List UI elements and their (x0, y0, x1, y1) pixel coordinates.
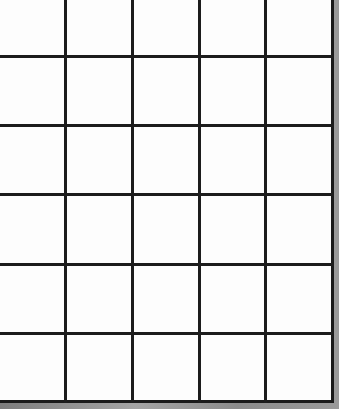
grid-vertical-line (131, 0, 134, 403)
grid-vertical-line (264, 0, 267, 403)
grid-sheet (0, 0, 334, 403)
grid-horizontal-line (0, 332, 334, 335)
grid-horizontal-line (0, 263, 334, 266)
grid-horizontal-line (0, 124, 334, 127)
grid-vertical-line (64, 0, 67, 403)
grid-horizontal-line (0, 193, 334, 196)
grid-horizontal-line (0, 55, 334, 58)
grid-vertical-line (198, 0, 201, 403)
